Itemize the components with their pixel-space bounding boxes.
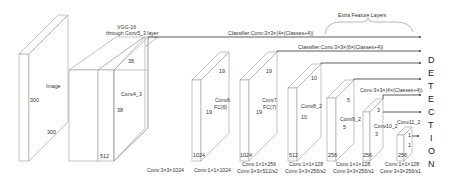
conv7-sublabel: FC(7) xyxy=(263,104,277,110)
op-conv6: Conv:1×1×1024 xyxy=(194,167,231,173)
conv6-sublabel: FC(6) xyxy=(214,104,228,110)
arrow-conv7 xyxy=(277,51,420,52)
conv10_2-block: 3 Conv10_2 3 256 xyxy=(363,99,398,161)
conv10_2-label: Conv10_2 xyxy=(374,123,398,129)
conv7-block: 19 Conv7 FC(7) 19 1024 xyxy=(240,52,277,161)
op-conv10_2-a: Conv:1×1×128 xyxy=(385,161,419,167)
detection-letter: T xyxy=(428,120,434,130)
detection-letter: O xyxy=(428,146,435,156)
conv11_2-top-dim: 1 xyxy=(408,132,411,138)
conv9_2-label: Conv9_2 xyxy=(340,116,361,122)
conv6-channels: 1024 xyxy=(193,152,205,158)
conv11_2-label: Conv11_2 xyxy=(397,119,420,125)
detection-letter: E xyxy=(428,94,434,104)
op-conv8_2-b: Conv:3×3×256/s2 xyxy=(285,168,326,174)
op-conv7-a: Conv:1×1×256 xyxy=(242,161,276,167)
op-conv8_2-a: Conv:1×1×128 xyxy=(289,161,323,167)
conv10_2-side-dim: 3 xyxy=(375,131,378,137)
detection-letter: E xyxy=(428,68,434,78)
conv10_2-channels: 256 xyxy=(363,152,372,158)
conv8_2-channels: 512 xyxy=(289,152,298,158)
conv8_2-block: 10 Conv8_2 10 512 xyxy=(288,64,322,161)
conv9_2-top-dim: 5 xyxy=(347,97,350,103)
arrow-conv9_2 xyxy=(354,79,420,80)
arrow-conv10_2 xyxy=(383,95,420,99)
arrow-conv8_2 xyxy=(321,63,420,64)
conv6-label: Conv6 xyxy=(215,97,230,103)
extra-layers-title: Extra Feature Layers xyxy=(338,12,387,18)
conv7-label: Conv7 xyxy=(262,97,277,103)
op-conv9_2-a: Conv:1×1×128 xyxy=(336,161,370,167)
conv4_3-channels: 512 xyxy=(100,153,109,159)
input-image-block: Image 300 300 xyxy=(19,15,68,161)
conv6-block: 19 Conv6 FC(6) 19 1024 xyxy=(192,52,230,161)
detection-letter: N xyxy=(428,159,435,169)
vgg-block: VGG-16 through Conv5_3 layer 38 Conv4_3 … xyxy=(69,24,159,161)
detection-letter: T xyxy=(428,81,434,91)
conv4_3-side-dim: 38 xyxy=(117,107,123,113)
conv6-side-dim: 19 xyxy=(206,109,212,115)
conv4_3-label: Conv4_3 xyxy=(121,91,142,97)
classifier-1: Classifier:Conv:3×3×(4×(Classes+4)) xyxy=(228,30,314,36)
op-conv4_3: Conv:3×3×1024 xyxy=(147,167,184,173)
conv9_2-side-dim: 5 xyxy=(343,124,346,130)
detection-letter: C xyxy=(428,107,435,117)
extra-layers-brace: Extra Feature Layers xyxy=(325,12,413,34)
detection-label: D E T E C T I O N xyxy=(428,55,435,169)
conv11_2-block: Conv11_2 1 1 256 xyxy=(397,119,420,161)
op-conv7-b: Conv:3×3×512/s2 xyxy=(237,168,278,174)
conv7-top-dim: 19 xyxy=(266,68,272,74)
conv7-channels: 1024 xyxy=(240,152,252,158)
detection-letter: I xyxy=(430,133,433,143)
classifier-3: Conv:3×3×(4×(Classes+4)) xyxy=(360,87,423,93)
conv8_2-label: Conv8_2 xyxy=(301,103,322,109)
operation-labels: Conv:3×3×1024 Conv:1×1×1024 Conv:1×1×256… xyxy=(147,161,421,174)
vgg-subtitle: through Conv5_3 layer xyxy=(106,30,159,36)
classifier-2: Classifier:Conv:3×3×(6×(Classes+4)) xyxy=(298,44,384,50)
conv10_2-top-dim: 3 xyxy=(377,107,380,113)
input-height: 300 xyxy=(30,97,39,103)
conv8_2-side-dim: 10 xyxy=(301,114,307,120)
ssd-architecture-diagram: Image 300 300 VGG-16 through Conv5_3 lay… xyxy=(0,0,453,183)
input-width: 300 xyxy=(47,129,56,135)
conv7-side-dim: 19 xyxy=(256,109,262,115)
conv9_2-channels: 256 xyxy=(328,152,337,158)
conv6-top-dim: 19 xyxy=(219,68,225,74)
conv4_3-top-dim: 38 xyxy=(128,58,134,64)
op-conv9_2-b: Conv:3×3×256/s1 xyxy=(333,168,374,174)
detection-letter: D xyxy=(428,55,435,65)
conv9_2-block: 5 Conv9_2 5 256 xyxy=(327,80,361,161)
conv11_2-side-dim: 1 xyxy=(408,142,411,148)
conv11_2-channels: 256 xyxy=(398,152,407,158)
op-conv10_2-b: Conv:3×3×256/s1 xyxy=(380,168,421,174)
input-label: Image xyxy=(46,83,61,89)
conv8_2-top-dim: 10 xyxy=(311,75,317,81)
